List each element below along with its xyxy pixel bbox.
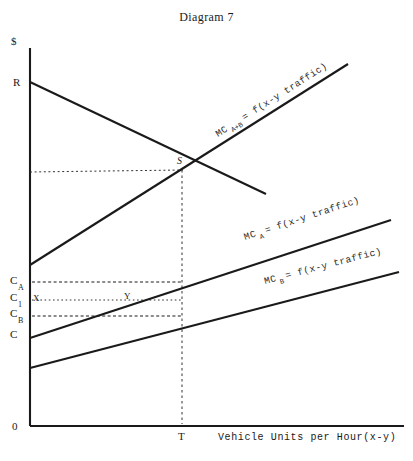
y-tick-CB-base: C — [10, 307, 17, 319]
curve-label-mc-a-sub: A — [259, 232, 266, 241]
y-tick-C-base: C — [10, 328, 17, 340]
curve-label-mc-a-plus-b: MC A+B = f(x-y traffic) — [214, 61, 332, 142]
curve-label-mc-b-sub: B — [279, 277, 285, 286]
point-label-S: S — [177, 155, 182, 166]
curve-label-mc-a-plus-b-rest: = f(x-y traffic) — [240, 61, 330, 123]
origin-label: 0 — [12, 420, 18, 432]
y-tick-R: R — [13, 76, 21, 88]
point-label-X: X — [33, 293, 40, 303]
y-tick-R-base: R — [13, 76, 21, 88]
y-tick-C1-sub: 1 — [18, 300, 22, 309]
x-axis-caption: Vehicle Units per Hour(x-y) — [218, 432, 396, 443]
x-tick-label-T: T — [178, 430, 185, 442]
curve-label-mc-a-plus-b-base: MC — [214, 124, 230, 140]
curve-label-mc-b-base: MC — [263, 273, 278, 287]
y-tick-CB: C B — [10, 307, 23, 325]
curve-label-mc-a-base: MC — [243, 229, 258, 243]
diagram-canvas: $ 0 R C A C 1 C B C MC A+B = f(x-y traff… — [0, 0, 413, 461]
curve-label-mc-a: MC A = f(x-y traffic) — [243, 195, 363, 246]
y-tick-CA: C A — [10, 274, 24, 292]
y-tick-CA-base: C — [10, 274, 17, 286]
curve-label-mc-b-rest: = f(x-y traffic) — [284, 246, 383, 281]
point-label-Y: Y — [124, 291, 131, 301]
guide-price-at-s — [30, 170, 183, 172]
y-tick-CA-sub: A — [18, 283, 24, 292]
y-tick-CB-sub: B — [18, 316, 23, 325]
curve-mc-a-plus-b[interactable] — [30, 64, 348, 265]
diagram-page: Diagram 7 $ 0 R C A C 1 C — [0, 0, 413, 461]
y-tick-C: C — [10, 328, 17, 340]
y-tick-C1-base: C — [10, 291, 17, 303]
y-axis-symbol: $ — [11, 35, 17, 47]
curve-label-mc-b: MC B = f(x-y traffic) — [263, 246, 384, 290]
curve-label-mc-a-rest: = f(x-y traffic) — [263, 195, 361, 236]
